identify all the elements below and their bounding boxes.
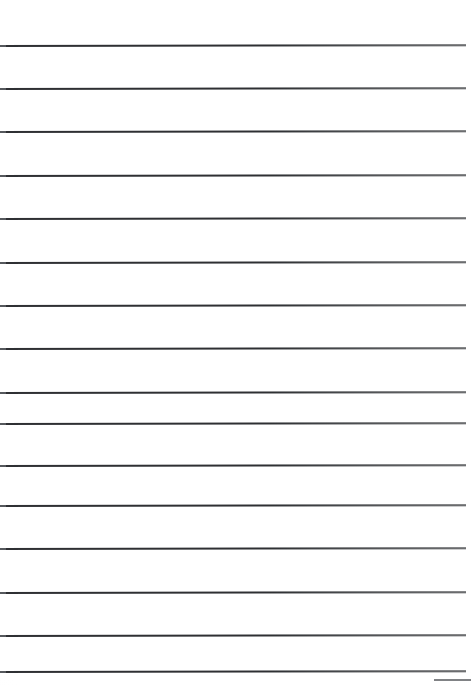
ruled-line <box>0 634 466 637</box>
ruled-line <box>0 591 466 594</box>
ruled-line <box>0 422 466 425</box>
ruled-line <box>0 87 466 90</box>
ruled-line <box>0 504 466 507</box>
ruled-line <box>0 44 466 47</box>
ruled-line <box>0 464 466 467</box>
ruled-line <box>0 347 466 350</box>
bottom-right-line-stub-artifact <box>434 679 471 681</box>
scan-paper-tint <box>0 0 471 685</box>
ruled-line <box>0 261 466 264</box>
ruled-line <box>0 304 466 307</box>
ruled-paper-sheet <box>0 0 471 685</box>
ruled-line <box>0 547 466 550</box>
ruled-line <box>0 130 466 133</box>
ruled-line <box>0 670 466 673</box>
ruled-line <box>0 217 466 220</box>
ruled-line <box>0 391 466 394</box>
ruled-line <box>0 174 466 177</box>
